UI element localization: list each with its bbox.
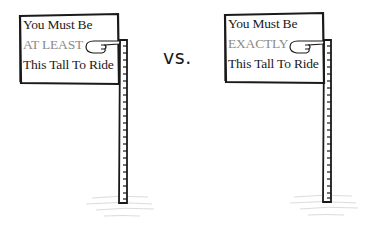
sign-line-2-emphasis: EXACTLY [228,34,319,54]
sign-line-3: This Tall To Ride [228,54,319,74]
sign-at-least-text: You Must Be AT LEAST This Tall To Ride [23,15,114,75]
measuring-pole-icon [119,40,127,203]
sign-line-1: You Must Be [23,15,114,35]
sign-line-3: This Tall To Ride [23,55,114,75]
sign-line-2-emphasis: AT LEAST [23,35,114,55]
height-sign-comparison: You Must Be AT LEAST This Tall To Ride v… [0,0,374,226]
versus-label: vs. [163,46,192,68]
sign-line-1: You Must Be [228,14,319,34]
sign-exactly-text: You Must Be EXACTLY This Tall To Ride [228,14,319,74]
